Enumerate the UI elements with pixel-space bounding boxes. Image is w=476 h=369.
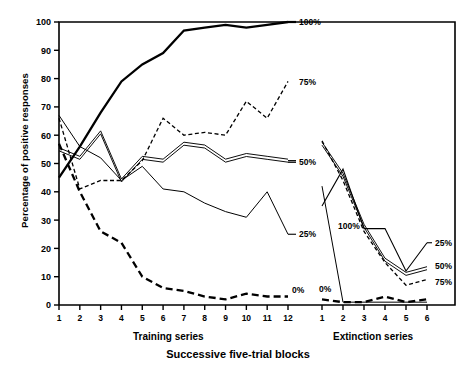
x-tick-label-extinction: 3	[362, 313, 367, 323]
x-tick-label-training: 10	[242, 313, 252, 323]
x-tick-label-training: 8	[202, 313, 207, 323]
series-label-training-0: 0%	[292, 285, 305, 295]
panel-title-extinction: Extinction series	[333, 331, 413, 342]
y-tick-label: 10	[41, 272, 51, 282]
plot-frame	[59, 22, 455, 305]
series-label-extinction-25: 25%	[435, 238, 452, 248]
x-tick-label-training: 3	[98, 313, 103, 323]
series-line-75pct	[59, 81, 288, 189]
x-axis-label: Successive five-trial blocks	[0, 348, 476, 360]
y-tick-label: 0	[46, 300, 51, 310]
figure-root: Percentage of positive responses 0102030…	[0, 0, 476, 369]
x-tick-label-training: 12	[283, 313, 293, 323]
series-label-training-50: 50%	[299, 157, 316, 167]
chart-canvas: 0102030405060708090100123456789101112123…	[0, 0, 476, 369]
y-tick-label: 90	[41, 46, 51, 56]
x-tick-label-training: 9	[223, 313, 228, 323]
series-line-0pct	[322, 297, 427, 303]
series-line-0pct	[59, 144, 288, 300]
x-tick-label-extinction: 1	[320, 313, 325, 323]
x-tick-label-training: 5	[140, 313, 145, 323]
series-line-50pct	[59, 134, 288, 182]
series-label-extinction-75: 75%	[435, 277, 452, 287]
series-label-training-25: 25%	[299, 229, 316, 239]
y-tick-label: 40	[41, 187, 51, 197]
series-layer	[59, 22, 427, 302]
series-label-training-100: 100%	[299, 17, 321, 27]
x-tick-label-extinction: 5	[404, 313, 409, 323]
x-tick-label-extinction: 2	[341, 313, 346, 323]
y-tick-label: 70	[41, 102, 51, 112]
series-label-extinction-0: 0%	[319, 284, 332, 294]
y-tick-label: 100	[36, 17, 51, 27]
panel-title-training: Training series	[133, 331, 204, 342]
x-tick-label-training: 6	[161, 313, 166, 323]
axis-layer: 0102030405060708090100123456789101112123…	[36, 17, 455, 323]
series-label-layer: 100%75%50%25%0%25%50%75%100%0%	[288, 17, 452, 294]
x-tick-label-training: 4	[119, 313, 124, 323]
x-tick-label-training: 7	[182, 313, 187, 323]
series-label-extinction-100: 100%	[338, 221, 360, 231]
y-axis-label: Percentage of positive responses	[19, 51, 30, 251]
x-tick-label-extinction: 4	[383, 313, 388, 323]
x-tick-label-extinction: 6	[425, 313, 430, 323]
y-tick-label: 20	[41, 244, 51, 254]
series-line-50pct	[59, 131, 288, 179]
series-label-extinction-50: 50%	[435, 261, 452, 271]
series-label-training-75: 75%	[299, 77, 316, 87]
series-line-50pct	[322, 142, 427, 272]
x-tick-label-training: 2	[77, 313, 82, 323]
y-tick-label: 80	[41, 74, 51, 84]
x-tick-label-training: 11	[263, 313, 272, 323]
y-tick-label: 50	[41, 159, 51, 169]
y-tick-label: 30	[41, 216, 51, 226]
x-tick-label-training: 1	[57, 313, 62, 323]
y-tick-label: 60	[41, 131, 51, 141]
